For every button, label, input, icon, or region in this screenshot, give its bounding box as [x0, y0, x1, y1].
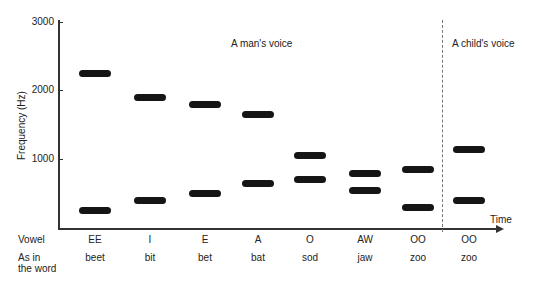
- word-label: zoo: [393, 252, 443, 263]
- x-axis-arrow-icon: [496, 225, 504, 233]
- x-axis-label: Time: [490, 214, 512, 225]
- row-label-word-2: the word: [18, 263, 56, 274]
- y-axis-label: Frequency (Hz): [16, 91, 27, 160]
- formant-bar: [294, 152, 326, 159]
- word-label: bet: [180, 252, 230, 263]
- formant-bar: [349, 187, 381, 194]
- formant-bar: [453, 197, 485, 204]
- word-label: sod: [285, 252, 335, 263]
- speaker-divider: [442, 20, 443, 232]
- y-tick-3000: [58, 22, 63, 23]
- formant-bar: [349, 170, 381, 177]
- vowel-label: I: [125, 234, 175, 245]
- y-tick-1000: [58, 159, 63, 160]
- formant-bar: [402, 204, 434, 211]
- y-tick-label: 3000: [14, 16, 54, 27]
- formant-bar: [242, 111, 274, 118]
- x-axis: [58, 228, 498, 230]
- vowel-label: E: [180, 234, 230, 245]
- annotation-child: A child's voice: [452, 38, 515, 49]
- y-axis: [58, 20, 60, 229]
- formant-bar: [134, 197, 166, 204]
- vowel-label: AW: [340, 234, 390, 245]
- vowel-label: OO: [393, 234, 443, 245]
- word-label: zoo: [444, 252, 494, 263]
- formant-bar: [79, 207, 111, 214]
- word-label: beet: [70, 252, 120, 263]
- y-tick-2000: [58, 90, 63, 91]
- formant-bar: [242, 180, 274, 187]
- row-label-word-1: As in: [18, 252, 40, 263]
- formant-bar: [189, 101, 221, 108]
- vowel-label: EE: [70, 234, 120, 245]
- formant-bar: [189, 190, 221, 197]
- word-label: jaw: [340, 252, 390, 263]
- vowel-label: O: [285, 234, 335, 245]
- word-label: bit: [125, 252, 175, 263]
- annotation-man: A man's voice: [231, 38, 292, 49]
- row-label-vowel: Vowel: [18, 234, 45, 245]
- vowel-label: A: [233, 234, 283, 245]
- word-label: bat: [233, 252, 283, 263]
- formant-bar: [402, 166, 434, 173]
- vowel-label: OO: [444, 234, 494, 245]
- formant-bar: [453, 146, 485, 153]
- formant-bar: [294, 176, 326, 183]
- formant-bar: [79, 70, 111, 77]
- formant-bar: [134, 94, 166, 101]
